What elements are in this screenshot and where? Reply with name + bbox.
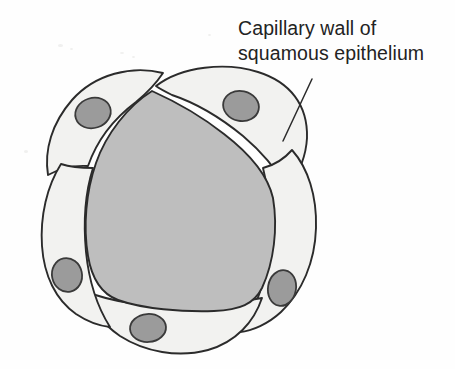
- capillary-diagram-figure: Capillary wall of squamous epithelium: [0, 0, 455, 369]
- label-line-2: squamous epithelium: [238, 41, 448, 66]
- capillary-wall-label: Capillary wall of squamous epithelium: [238, 16, 448, 66]
- label-line-1: Capillary wall of: [238, 16, 448, 41]
